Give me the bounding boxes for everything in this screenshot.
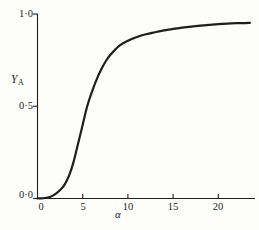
x-tick-label-0: 0 bbox=[29, 201, 53, 213]
x-tick-label-5: 5 bbox=[71, 201, 95, 213]
saturation-curve-figure: YA 1·0 0·5 0·0 0 5 10 15 20 α bbox=[0, 0, 259, 230]
y-axis-title: YA bbox=[11, 73, 23, 87]
plot-area bbox=[0, 0, 259, 230]
saturation-curve bbox=[38, 23, 250, 199]
x-tick-label-15: 15 bbox=[161, 201, 185, 213]
y-axis-title-main: Y bbox=[11, 73, 17, 85]
y-axis-title-sub: A bbox=[18, 78, 24, 87]
y-tick-label-1-0: 1·0 bbox=[6, 8, 33, 20]
x-axis-title: α bbox=[106, 208, 130, 220]
y-tick-label-0-5: 0·5 bbox=[6, 100, 33, 112]
y-tick-label-0-0: 0·0 bbox=[6, 189, 33, 201]
x-tick-label-20: 20 bbox=[206, 201, 230, 213]
